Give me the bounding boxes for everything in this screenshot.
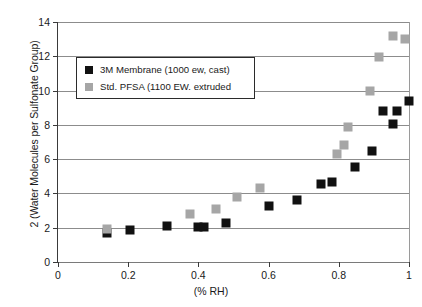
y-tick-mark [53, 22, 58, 23]
legend-item: Std. PFSA (1100 EW. extruded [85, 81, 247, 93]
legend-label: Std. PFSA (1100 EW. extruded [100, 81, 231, 93]
legend-swatch [85, 66, 93, 74]
data-point [292, 196, 301, 205]
data-point [350, 162, 359, 171]
chart-figure: 2 (Water Molecules per Sulfonate Group) … [0, 0, 422, 307]
data-point [378, 107, 387, 116]
data-point [185, 209, 194, 218]
data-point [340, 141, 349, 150]
gridline [58, 159, 409, 160]
data-point [103, 224, 112, 233]
x-tick-mark [128, 262, 129, 267]
data-point [375, 53, 384, 62]
x-tick-mark [198, 262, 199, 267]
legend-swatch [85, 83, 93, 91]
x-tick-label: 0.4 [191, 269, 206, 281]
legend-label: 3M Membrane (1000 ew, cast) [100, 64, 230, 76]
x-tick-mark [339, 262, 340, 267]
x-tick-label: 0.2 [121, 269, 136, 281]
x-tick-label: 0 [55, 269, 61, 281]
data-point [255, 184, 264, 193]
y-tick-mark [53, 56, 58, 57]
gridline [58, 125, 409, 126]
y-tick-mark [53, 125, 58, 126]
data-point [368, 146, 377, 155]
y-tick-label: 14 [38, 16, 50, 28]
data-point [233, 193, 242, 202]
y-tick-label: 12 [38, 50, 50, 62]
data-point [405, 96, 414, 105]
y-tick-label: 2 [44, 222, 50, 234]
x-tick-label: 0.6 [261, 269, 276, 281]
x-tick-mark [58, 262, 59, 267]
x-tick-label: 1 [406, 269, 412, 281]
y-tick-mark [53, 91, 58, 92]
gridline [58, 262, 409, 263]
y-tick-mark [53, 193, 58, 194]
y-tick-label: 10 [38, 85, 50, 97]
legend-item: 3M Membrane (1000 ew, cast) [85, 64, 247, 76]
data-point [222, 219, 231, 228]
y-tick-mark [53, 159, 58, 160]
x-tick-mark [409, 262, 410, 267]
y-tick-label: 8 [44, 119, 50, 131]
data-point [343, 122, 352, 131]
data-point [264, 201, 273, 210]
x-axis-label: (% RH) [0, 285, 422, 297]
chart-legend: 3M Membrane (1000 ew, cast)Std. PFSA (11… [76, 57, 255, 99]
data-point [162, 222, 171, 231]
data-point [211, 204, 220, 213]
data-point [327, 178, 336, 187]
y-tick-mark [53, 228, 58, 229]
y-tick-label: 0 [44, 256, 50, 268]
data-point [333, 149, 342, 158]
x-tick-mark [269, 262, 270, 267]
data-point [125, 225, 134, 234]
data-point [392, 107, 401, 116]
y-tick-label: 6 [44, 153, 50, 165]
x-tick-label: 0.8 [331, 269, 346, 281]
data-point [401, 34, 410, 43]
data-point [366, 86, 375, 95]
data-point [199, 222, 208, 231]
data-point [389, 120, 398, 129]
gridline [58, 22, 409, 23]
y-tick-label: 4 [44, 187, 50, 199]
data-point [389, 32, 398, 41]
data-point [317, 180, 326, 189]
